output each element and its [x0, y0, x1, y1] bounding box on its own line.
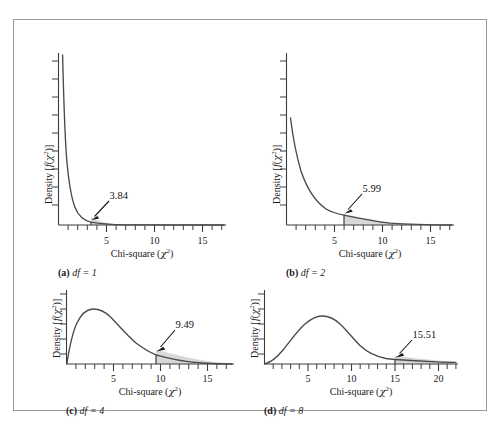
panel-b-critical-label: 5.99: [363, 183, 381, 194]
panel-a-curve: [63, 55, 224, 225]
panel-b-xticklabel-2: 15: [426, 235, 436, 246]
panel-c-xticklabel-0: 5: [111, 373, 116, 384]
panel-c-y-axis-title: Density [f(χ2)]: [50, 299, 62, 358]
panel-b-curve: [291, 118, 453, 225]
panel-d-xticklabel-3: 20: [434, 373, 444, 384]
panel-d-curve: [265, 316, 456, 364]
panel-a-caption-text: df = 1: [72, 267, 97, 278]
panel-c-x-ticks: [76, 364, 226, 371]
panel-a-caption: (a) df = 1: [58, 267, 97, 278]
figure-border: 5 10 15 3.84 Density [f(χ2)] Chi-squar: [13, 19, 487, 411]
panel-d: 5 10 15 20 15.51 Density [f(χ2)] Chi-squ…: [240, 282, 468, 408]
panel-d-xticklabel-2: 15: [390, 373, 400, 384]
panel-c-x-axis-title: Chi-square (χ2): [66, 385, 234, 397]
panel-c-caption-text: df = 4: [80, 405, 105, 416]
panel-d-y-axis-title: Density [f(χ2)]: [248, 299, 260, 358]
panel-b-plot: 5 10 15 5.99: [258, 34, 472, 256]
panel-d-xticklabel-0: 5: [306, 373, 311, 384]
panel-d-x-axis-title: Chi-square (χ2): [264, 385, 458, 397]
panel-d-caption: (d) df = 8: [264, 405, 303, 416]
panel-b-caption: (b) df = 2: [286, 267, 325, 278]
panel-a-xticklabel-1: 10: [150, 235, 160, 246]
panel-b-x-ticks: [296, 225, 450, 232]
panel-a-annotation-arrow: [91, 201, 109, 220]
panel-c-plot: 5 10 15 9.49: [40, 282, 250, 388]
panel-d-critical-label: 15.51: [413, 329, 437, 340]
panel-b-x-axis-title: Chi-square (χ2): [286, 247, 454, 259]
panel-a-xticklabel-0: 5: [104, 235, 109, 246]
panel-a-x-ticks: [68, 225, 222, 232]
panel-c-caption-letter: (c): [66, 405, 77, 416]
panel-d-plot: 5 10 15 20 15.51: [240, 282, 468, 388]
panel-c-caption: (c) df = 4: [66, 405, 104, 416]
panel-d-x-ticks: [273, 364, 456, 371]
panel-a-caption-letter: (a): [58, 267, 70, 278]
panel-a-xticklabel-2: 15: [198, 235, 208, 246]
panel-b-xticklabel-1: 10: [378, 235, 388, 246]
panel-b-y-axis-title: Density [f(χ2)]: [270, 145, 282, 204]
panel-b-xticklabel-0: 5: [332, 235, 337, 246]
panel-c-curve: [67, 309, 232, 364]
panel-b-annotation-arrow: [345, 194, 363, 214]
panel-d-xticklabel-1: 10: [347, 373, 357, 384]
panel-c-critical-label: 9.49: [176, 319, 194, 330]
panel-d-caption-letter: (d): [264, 405, 276, 416]
panel-c-annotation-arrow: [157, 330, 176, 352]
panel-c-xticklabel-2: 15: [203, 373, 213, 384]
panel-c: 5 10 15 9.49 Density [f(χ2)] Chi-square …: [40, 282, 250, 408]
panel-a-x-axis-title: Chi-square (χ2): [58, 247, 226, 259]
panel-d-annotation-arrow: [396, 340, 413, 358]
panel-b-caption-text: df = 2: [301, 267, 326, 278]
panel-a-plot: 5 10 15 3.84: [30, 34, 244, 256]
panel-d-caption-text: df = 8: [279, 405, 304, 416]
panel-b-caption-letter: (b): [286, 267, 298, 278]
panel-b: 5 10 15 5.99 Density [f(χ2)] Chi-square …: [258, 34, 472, 284]
panel-a-y-axis-title: Density [f(χ2)]: [42, 145, 54, 204]
panel-c-xticklabel-1: 10: [156, 373, 166, 384]
panel-a-critical-label: 3.84: [110, 190, 129, 201]
panel-a: 5 10 15 3.84 Density [f(χ2)] Chi-squar: [30, 34, 244, 284]
